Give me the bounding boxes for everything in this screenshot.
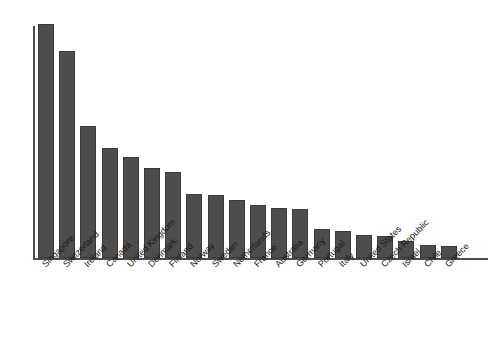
bar xyxy=(38,24,54,258)
y-axis-line xyxy=(33,26,35,260)
bar-chart: SingaporeSwitzerlandIrelandCanadaUnited … xyxy=(0,0,501,341)
x-axis-tick-labels: SingaporeSwitzerlandIrelandCanadaUnited … xyxy=(33,262,501,341)
bar xyxy=(59,51,75,258)
bar xyxy=(102,148,118,258)
